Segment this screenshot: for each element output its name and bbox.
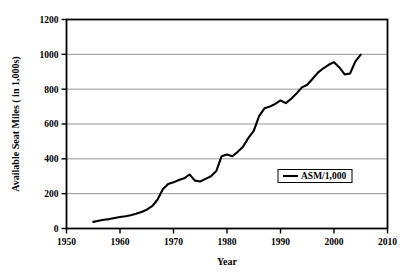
- line-chart: 0200400600800100012001950196019701980199…: [0, 0, 409, 274]
- y-tick-label: 1000: [40, 50, 59, 60]
- chart-figure: 0200400600800100012001950196019701980199…: [0, 0, 409, 274]
- y-tick-label: 0: [54, 224, 59, 234]
- y-tick-label: 600: [44, 119, 59, 129]
- x-tick-label: 2010: [378, 237, 397, 247]
- x-tick-label: 1990: [271, 237, 290, 247]
- y-tick-label: 400: [44, 154, 59, 164]
- y-axis: 020040060080010001200: [40, 15, 67, 234]
- x-tick-label: 1960: [111, 237, 130, 247]
- x-tick-label: 2000: [325, 237, 344, 247]
- legend-entry-label: ASM/1,000: [301, 171, 346, 181]
- y-tick-label: 200: [44, 189, 59, 199]
- x-axis: 1950196019701980199020002010: [57, 229, 397, 247]
- y-tick-label: 1200: [40, 15, 59, 25]
- x-tick-label: 1950: [57, 237, 76, 247]
- y-axis-title: Available Seat Miles ( in 1,000s): [10, 56, 22, 191]
- legend[interactable]: ASM/1,000: [278, 170, 352, 183]
- y-tick-label: 800: [44, 85, 59, 95]
- x-tick-label: 1970: [164, 237, 183, 247]
- x-axis-title: Year: [217, 256, 238, 267]
- x-tick-label: 1980: [218, 237, 237, 247]
